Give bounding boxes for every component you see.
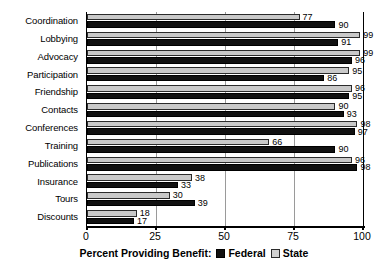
x-axis-tick-labels: 0255075100 xyxy=(86,231,362,245)
bar-slot: 90 xyxy=(87,21,363,28)
bar-state xyxy=(87,192,170,199)
bar-value-label: 91 xyxy=(338,38,351,47)
bar-slot: 86 xyxy=(87,75,363,82)
plot-area: 7790999199969586969590939897669096983833… xyxy=(86,12,364,226)
bar-value-label: 66 xyxy=(269,137,282,146)
bar-state xyxy=(87,67,349,74)
bar-federal xyxy=(87,111,344,118)
bar-value-label: 17 xyxy=(134,216,147,225)
bar-federal xyxy=(87,21,335,28)
bar-slot: 98 xyxy=(87,164,363,171)
bar-slot: 30 xyxy=(87,192,363,199)
legend-label-state: State xyxy=(283,248,309,259)
bar-state xyxy=(87,210,137,217)
bar-federal xyxy=(87,218,134,225)
bar-value-label: 30 xyxy=(170,191,183,200)
category-label: Conferences xyxy=(0,119,82,137)
bar-group: 6690 xyxy=(87,137,363,155)
bar-state xyxy=(87,103,335,110)
bar-slot: 96 xyxy=(87,57,363,64)
bar-slot: 91 xyxy=(87,39,363,46)
bar-value-label: 33 xyxy=(178,181,191,190)
bar-slot: 90 xyxy=(87,146,363,153)
x-tick-label: 100 xyxy=(353,231,371,242)
bar-slot: 18 xyxy=(87,210,363,217)
bar-group: 9897 xyxy=(87,119,363,137)
bar-federal xyxy=(87,128,355,135)
bar-value-label: 99 xyxy=(360,30,373,39)
bar-state xyxy=(87,174,192,181)
bar-value-label: 97 xyxy=(355,127,368,136)
bar-slot: 33 xyxy=(87,182,363,189)
bar-group: 9698 xyxy=(87,155,363,173)
bar-slot: 97 xyxy=(87,128,363,135)
bar-slot: 99 xyxy=(87,50,363,57)
bar-slot: 98 xyxy=(87,121,363,128)
bar-state xyxy=(87,14,300,21)
bar-federal xyxy=(87,164,357,171)
bar-group: 9586 xyxy=(87,65,363,83)
bar-value-label: 77 xyxy=(300,13,313,22)
legend-label-federal: Federal xyxy=(228,248,265,259)
x-tick-label: 50 xyxy=(218,231,230,242)
bar-state xyxy=(87,157,352,164)
legend-swatch-federal-icon xyxy=(216,249,225,258)
bar-federal xyxy=(87,57,352,64)
bar-group: 9695 xyxy=(87,83,363,101)
bar-slot: 96 xyxy=(87,157,363,164)
bar-group: 9996 xyxy=(87,48,363,66)
bar-group: 1817 xyxy=(87,208,363,226)
bar-value-label: 90 xyxy=(335,145,348,154)
bar-state xyxy=(87,121,357,128)
bar-group: 9991 xyxy=(87,30,363,48)
category-label: Friendship xyxy=(0,83,82,101)
bar-value-label: 90 xyxy=(335,20,348,29)
bar-slot: 39 xyxy=(87,200,363,207)
bar-group: 7790 xyxy=(87,12,363,30)
bar-group: 3833 xyxy=(87,172,363,190)
category-label: Discounts xyxy=(0,208,82,226)
category-label: Publications xyxy=(0,155,82,173)
bar-federal xyxy=(87,39,338,46)
bar-federal xyxy=(87,146,335,153)
bar-slot: 95 xyxy=(87,93,363,100)
bar-slot: 90 xyxy=(87,103,363,110)
legend-item-federal: Federal xyxy=(216,248,265,259)
bar-value-label: 95 xyxy=(349,66,362,75)
bar-rows: 7790999199969586969590939897669096983833… xyxy=(87,12,363,226)
bar-value-label: 98 xyxy=(357,163,370,172)
bar-federal xyxy=(87,93,349,100)
bar-slot: 95 xyxy=(87,67,363,74)
bar-group: 3039 xyxy=(87,190,363,208)
bar-slot: 99 xyxy=(87,32,363,39)
bar-value-label: 86 xyxy=(324,74,337,83)
bar-federal xyxy=(87,75,324,82)
legend-item-state: State xyxy=(271,248,309,259)
legend-swatch-state-icon xyxy=(271,249,280,258)
bar-value-label: 93 xyxy=(344,109,357,118)
bar-federal xyxy=(87,182,178,189)
bar-state xyxy=(87,32,360,39)
bar-value-label: 39 xyxy=(195,198,208,207)
bar-slot: 77 xyxy=(87,14,363,21)
category-label: Advocacy xyxy=(0,48,82,66)
category-label: Coordination xyxy=(0,12,82,30)
category-label: Insurance xyxy=(0,172,82,190)
bar-slot: 38 xyxy=(87,174,363,181)
bar-slot: 17 xyxy=(87,218,363,225)
x-axis-title: Percent Providing Benefit: xyxy=(80,248,212,259)
bar-chart: CoordinationLobbyingAdvocacyParticipatio… xyxy=(0,0,388,276)
bar-slot: 66 xyxy=(87,139,363,146)
category-axis: CoordinationLobbyingAdvocacyParticipatio… xyxy=(0,12,82,226)
x-tick-label: 25 xyxy=(149,231,161,242)
bar-federal xyxy=(87,200,195,207)
x-tick-label: 75 xyxy=(287,231,299,242)
bar-state xyxy=(87,139,269,146)
bar-slot: 93 xyxy=(87,111,363,118)
category-label: Tours xyxy=(0,190,82,208)
bar-group: 9093 xyxy=(87,101,363,119)
bar-slot: 96 xyxy=(87,85,363,92)
category-label: Training xyxy=(0,137,82,155)
bar-state xyxy=(87,50,360,57)
category-label: Participation xyxy=(0,65,82,83)
